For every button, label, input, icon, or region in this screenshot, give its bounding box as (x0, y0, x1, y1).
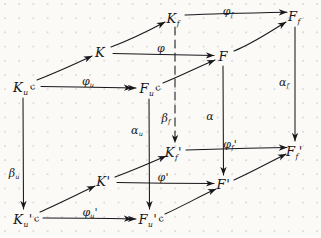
arrow-label-phi-f-prime: φf' (223, 135, 236, 152)
node-Fu-base: F (139, 81, 148, 96)
node-Ku: Kuc (13, 79, 35, 96)
label-base: α (131, 124, 138, 137)
node-K: K (95, 44, 107, 61)
label-base: φ (157, 42, 165, 55)
diagram-edges: F_f --> K_f (diagonal up-right) --> F --… (0, 0, 321, 238)
label-sub: f (168, 118, 170, 126)
node-F-base: F (218, 49, 227, 64)
label-prime: ' (95, 206, 98, 219)
node-Fp-prime: ' (226, 177, 230, 192)
label-sub: f (287, 82, 289, 90)
node-Kfp-base: K (165, 145, 175, 160)
edge-F-to-Ff (234, 22, 286, 51)
arrow-label-phi-u-prime: φu' (82, 203, 97, 220)
node-Ff-base: F (288, 9, 297, 24)
arrow-label-alpha: α (206, 107, 214, 124)
node-F-prime: F' (217, 176, 232, 193)
label-sub: f (231, 11, 233, 19)
node-K-prime: K' (96, 173, 112, 190)
hook-arrow-icon: c (33, 213, 41, 223)
node-Ku-base: K (13, 80, 23, 95)
label-base: φ (82, 75, 90, 88)
arrow-label-phi: φ (157, 39, 165, 56)
node-Kf-sub: f (177, 18, 180, 27)
node-Ff: Ff (288, 8, 302, 25)
edge-Fp-to-Ffp (234, 154, 286, 180)
arrow-label-phi-f: φf (223, 2, 233, 19)
node-Fup-base: F (139, 212, 148, 227)
arrow-label-alpha-u: αu (131, 121, 143, 138)
node-F: F (218, 48, 229, 65)
label-prime: ' (234, 138, 237, 151)
arrow-label-alpha-f: αf (279, 73, 289, 90)
node-Kp-prime: ' (107, 174, 111, 189)
node-Kf-base: K (167, 11, 177, 26)
label-base: β (162, 112, 168, 125)
label-base: α (206, 110, 213, 123)
label-prime: ' (165, 171, 168, 184)
arrow-label-beta-u: βu (9, 164, 20, 181)
node-Kf: Kf (167, 10, 182, 27)
node-Fup-sub: u (148, 219, 153, 228)
node-Ff-prime: Ff' (286, 143, 304, 160)
arrow-label-phi-prime: φ' (158, 168, 169, 185)
node-Kf-prime: Kf' (165, 144, 184, 161)
node-Ffp-base: F (286, 144, 295, 159)
node-Fp-base: F (217, 177, 226, 192)
edge-Fu-to-Fup (149, 99, 150, 209)
node-Ffp-prime: ' (299, 144, 303, 159)
label-base: φ (223, 5, 231, 18)
edge-F-to-Fp (223, 66, 224, 175)
diagram-canvas: F_f --> K_f (diagonal up-right) --> F --… (0, 0, 321, 238)
label-base: φ (223, 138, 231, 151)
label-sub: u (139, 130, 143, 138)
node-Ku-prime: Ku'c (13, 211, 39, 228)
label-base: φ (158, 171, 166, 184)
node-Kfp-prime: ' (178, 145, 182, 160)
label-base: α (279, 76, 286, 89)
node-Kp-base: K (96, 174, 106, 189)
arrow-label-beta-f: βf (162, 109, 171, 126)
node-Kup-base: K (13, 212, 23, 227)
edge-Fu-to-F (163, 60, 215, 83)
node-Ff-sub: f (297, 16, 300, 25)
label-base: φ (82, 206, 90, 219)
label-sub: u (90, 81, 94, 89)
edge-Ku-to-Kup (23, 98, 24, 209)
node-Fu: Fuc (139, 80, 160, 97)
edge-Kf-to-Ff (185, 12, 287, 15)
node-Fu-sub: u (149, 88, 154, 97)
label-sub: u (15, 173, 19, 181)
arrow-label-phi-u: φu (82, 72, 94, 89)
edge-Fup-to-Fp (165, 189, 216, 214)
label-base: β (9, 167, 15, 180)
node-K-base: K (95, 45, 105, 60)
node-Ku-sub: u (23, 87, 28, 96)
node-Fu-prime: Fu'c (139, 211, 164, 228)
